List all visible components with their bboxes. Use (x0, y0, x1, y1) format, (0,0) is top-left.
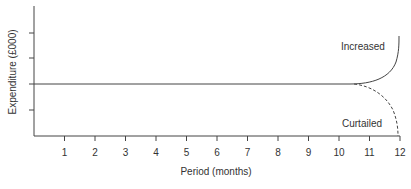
x-axis-title: Period (months) (180, 166, 251, 177)
x-tick-label: 9 (306, 147, 312, 158)
x-tick-label: 8 (275, 147, 281, 158)
y-axis-title: Expenditure (£000) (7, 29, 18, 114)
expenditure-chart: 123456789101112 Increased Curtailed Peri… (0, 0, 411, 189)
x-tick-label: 10 (333, 147, 345, 158)
x-tick-label: 11 (364, 147, 375, 158)
x-tick-label: 3 (123, 147, 129, 158)
x-tick-label: 12 (394, 147, 406, 158)
x-tick-label: 6 (214, 147, 220, 158)
x-tick-label: 5 (184, 147, 190, 158)
x-tick-label: 4 (153, 147, 159, 158)
x-tick-label: 7 (245, 147, 251, 158)
x-tick-label: 2 (92, 147, 98, 158)
curtailed-label: Curtailed (342, 118, 382, 129)
x-tick-label: 1 (62, 147, 68, 158)
x-tick-labels: 123456789101112 (62, 147, 406, 158)
increased-label: Increased (341, 41, 385, 52)
x-ticks (65, 136, 401, 141)
y-ticks (29, 33, 34, 110)
